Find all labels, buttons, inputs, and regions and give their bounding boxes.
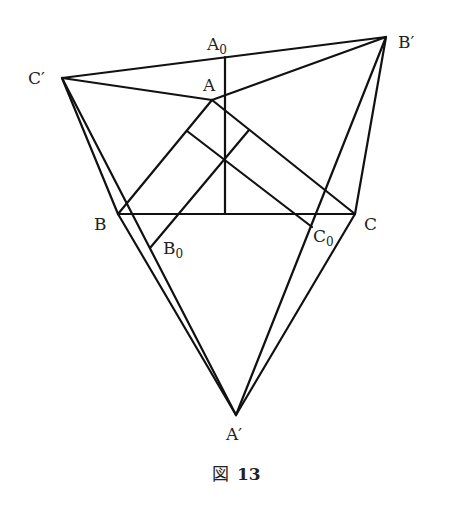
label-cprime: C′: [28, 68, 45, 88]
segment-b-aprime: [118, 214, 236, 415]
caption-number: 13: [237, 464, 261, 484]
segment-bprime-c: [355, 37, 386, 214]
segment-a-c: [212, 100, 355, 214]
geometry-diagram: A0 A B′ C′ B C B0 C0 A′ 図13: [0, 0, 449, 510]
figure-canvas: A0 A B′ C′ B C B0 C0 A′ 図13: [0, 0, 449, 510]
segment-a-bprime: [212, 37, 386, 100]
label-c: C: [364, 214, 377, 234]
label-b0: B0: [163, 238, 183, 261]
segment-acfoot-b0: [150, 130, 249, 248]
segment-cprime-aprime: [62, 78, 236, 415]
segment-cprime-a: [62, 78, 212, 100]
label-aprime: A′: [225, 424, 242, 444]
label-a: A: [202, 75, 216, 95]
caption-prefix: 図: [212, 464, 229, 484]
label-c0: C0: [313, 226, 334, 249]
segment-abfoot-c0: [187, 131, 312, 227]
segment-c-aprime: [236, 214, 355, 415]
figure-caption: 図13: [212, 464, 261, 484]
segment-cprime-b: [62, 78, 118, 214]
segment-a-b: [118, 100, 212, 214]
label-a0: A0: [206, 34, 227, 57]
label-bprime: B′: [398, 32, 414, 52]
label-b: B: [94, 214, 107, 234]
